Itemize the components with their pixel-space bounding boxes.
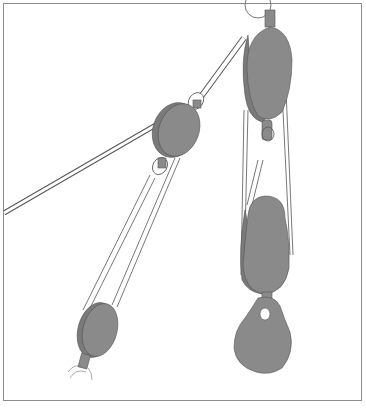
ropes-left-tackle (83, 158, 180, 312)
upper-double-block (243, 27, 292, 141)
hanging-weight (234, 297, 291, 373)
pulley-illustration (0, 0, 366, 408)
top-ring (245, 0, 275, 27)
rope-upper-link (200, 38, 244, 98)
rope-main (4, 118, 168, 213)
lower-double-block (241, 196, 290, 306)
upper-single-block (145, 90, 207, 178)
lower-single-block (68, 298, 123, 380)
